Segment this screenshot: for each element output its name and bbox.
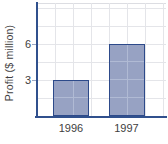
bar-gridline [110,97,144,98]
v-gridline [163,3,164,116]
y-axis-line [36,2,38,118]
x-axis-line [35,116,167,118]
h-gridline [37,62,166,63]
y-tick-label: 6 [11,38,31,50]
h-gridline [37,44,166,45]
h-gridline [37,8,166,9]
y-axis-title: Profit ($ million) [2,8,16,118]
bar-gridline [110,61,144,62]
bar-1996 [53,80,89,116]
y-tick-mark [32,80,36,81]
x-axis-label-1996: 1996 [46,122,96,135]
x-axis-label-1997: 1997 [102,122,152,135]
bar-gridline [110,79,144,80]
y-tick-mark [32,44,36,45]
y-tick-label: 3 [11,74,31,86]
v-gridline [91,3,92,116]
bar-gridline [54,97,88,98]
profit-bar-chart: Profit ($ million) 3619961997 [0,0,168,144]
bar-1997 [109,44,145,116]
plot-top-border [37,3,166,4]
h-gridline [37,26,166,27]
v-gridline [145,3,146,116]
